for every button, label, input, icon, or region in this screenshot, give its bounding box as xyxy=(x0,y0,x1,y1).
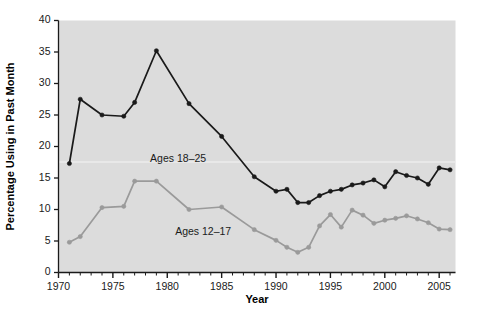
series-data-point xyxy=(437,166,441,170)
series-annotation-label: Ages 18–25 xyxy=(150,152,206,164)
series-data-point xyxy=(122,114,126,118)
series-data-point xyxy=(383,218,387,222)
y-axis-tick-label: 10 xyxy=(39,202,51,214)
series-data-point xyxy=(448,228,452,232)
x-axis-tick-label: 1995 xyxy=(319,280,343,292)
y-axis-title: Percentage Using in Past Month xyxy=(4,62,16,230)
series-data-point xyxy=(339,225,343,229)
series-data-point xyxy=(285,187,289,191)
series-data-point xyxy=(187,207,191,211)
series-data-point xyxy=(78,97,82,101)
x-axis-tick-label: 1985 xyxy=(210,280,234,292)
y-axis-tick-label: 20 xyxy=(39,139,51,151)
x-axis-tick-label: 1990 xyxy=(264,280,288,292)
series-data-point xyxy=(154,179,158,183)
series-data-point xyxy=(361,181,365,185)
y-axis-tick-label: 0 xyxy=(45,265,51,277)
series-data-point xyxy=(220,205,224,209)
x-axis-tick-label: 1970 xyxy=(47,280,71,292)
series-data-point xyxy=(285,245,289,249)
series-data-point xyxy=(307,245,311,249)
y-axis-tick-label: 15 xyxy=(39,171,51,183)
series-data-point xyxy=(100,206,104,210)
x-axis-tick-label: 2005 xyxy=(428,280,452,292)
series-data-point xyxy=(372,178,376,182)
x-axis-tick-label: 2000 xyxy=(373,280,397,292)
series-data-point xyxy=(350,183,354,187)
chart-figure: 0510152025303540197019751980198519901995… xyxy=(0,0,478,323)
series-data-point xyxy=(437,227,441,231)
x-axis-tick-label: 1975 xyxy=(101,280,125,292)
series-data-point xyxy=(415,176,419,180)
series-data-point xyxy=(350,208,354,212)
series-data-point xyxy=(154,49,158,53)
series-data-point xyxy=(78,234,82,238)
series-data-point xyxy=(404,173,408,177)
series-data-point xyxy=(274,189,278,193)
series-data-point xyxy=(307,200,311,204)
series-data-point xyxy=(339,187,343,191)
x-axis-tick-label: 1980 xyxy=(156,280,180,292)
y-axis-tick-label: 30 xyxy=(39,76,51,88)
series-data-point xyxy=(133,179,137,183)
series-data-point xyxy=(274,238,278,242)
y-axis-tick-label: 40 xyxy=(39,13,51,25)
series-data-point xyxy=(404,214,408,218)
series-data-point xyxy=(296,200,300,204)
plot-area-background xyxy=(59,21,456,273)
series-data-point xyxy=(100,113,104,117)
series-data-point xyxy=(448,168,452,172)
series-data-point xyxy=(252,228,256,232)
y-axis-tick-label: 5 xyxy=(45,234,51,246)
series-data-point xyxy=(252,175,256,179)
series-data-point xyxy=(328,189,332,193)
series-data-point xyxy=(187,102,191,106)
series-data-point xyxy=(67,240,71,244)
series-data-point xyxy=(220,134,224,138)
series-data-point xyxy=(426,221,430,225)
y-axis-tick-label: 25 xyxy=(39,108,51,120)
series-data-point xyxy=(296,250,300,254)
series-annotation-label: Ages 12–17 xyxy=(175,225,231,237)
series-data-point xyxy=(426,182,430,186)
series-data-point xyxy=(372,221,376,225)
series-data-point xyxy=(394,170,398,174)
line-chart-plot: 0510152025303540197019751980198519901995… xyxy=(0,0,478,323)
series-data-point xyxy=(328,212,332,216)
series-data-point xyxy=(317,224,321,228)
series-data-point xyxy=(383,185,387,189)
series-data-point xyxy=(67,161,71,165)
series-data-point xyxy=(361,213,365,217)
series-data-point xyxy=(415,217,419,221)
y-axis-tick-label: 35 xyxy=(39,45,51,57)
x-axis-title: Year xyxy=(245,293,269,305)
series-data-point xyxy=(133,100,137,104)
series-data-point xyxy=(317,194,321,198)
series-data-point xyxy=(394,216,398,220)
series-data-point xyxy=(122,204,126,208)
